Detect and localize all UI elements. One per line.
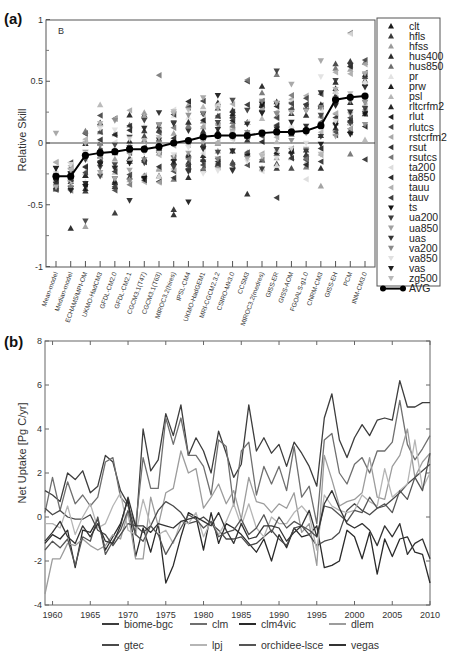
x-tick-label: 1980 [194, 610, 214, 620]
series-line-biome-bgc [45, 381, 430, 535]
x-tick-label: 1985 [231, 610, 251, 620]
y-tick-label: 6 [37, 380, 42, 390]
x-tick-label: 2005 [382, 610, 402, 620]
panel-b-label: (b) [4, 333, 23, 350]
legend-item-label: clm [212, 618, 229, 630]
legend-item-label: dlem [351, 618, 374, 630]
y-tick-label: 2 [37, 468, 42, 478]
series-lines [45, 381, 430, 594]
x-tick-label: 1965 [80, 610, 100, 620]
y-axis-label-b: Net Uptake [Pg C/yr] [16, 403, 28, 504]
y-tick-label: 0 [37, 512, 42, 522]
y-tick-label: -4 [34, 600, 42, 610]
net-uptake-chart: (b)86420-2-41960196519701975198019851990… [0, 0, 454, 664]
legend-item-label: orchidee-lsce [261, 639, 324, 651]
x-tick-label: 1960 [43, 610, 63, 620]
series-line-dlem [45, 429, 430, 594]
legend-item-label: biome-bgc [124, 618, 173, 630]
legend-item-label: clm4vic [261, 618, 296, 630]
legend-item-label: vegas [351, 639, 379, 651]
x-tick-label: 1995 [307, 610, 327, 620]
y-tick-label: -2 [34, 556, 42, 566]
x-tick-label: 2010 [420, 610, 440, 620]
legend-item-label: lpj [212, 639, 223, 651]
y-tick-label: 8 [37, 336, 42, 346]
legend-item-label: gtec [124, 639, 144, 651]
y-tick-label: 4 [37, 424, 42, 434]
legend-b: biome-bgcclmclm4vicdlemgteclpjorchidee-l… [102, 618, 379, 651]
